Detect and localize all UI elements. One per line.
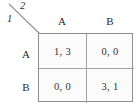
payoff-matrix-figure: 2 1 A B A B 1, 3 0, 0 0, 0 3, 1 [0, 0, 139, 109]
row-header-b: B [18, 81, 34, 93]
table-row: 1, 3 0, 0 [39, 34, 134, 68]
payoff-cell-b-b: 3, 1 [86, 69, 133, 103]
column-header-a: A [38, 15, 86, 27]
table-row: 0, 0 3, 1 [39, 68, 134, 103]
row-player-label: 1 [7, 14, 12, 25]
payoff-cell-b-a: 0, 0 [39, 69, 86, 103]
payoff-cell-a-a: 1, 3 [39, 34, 86, 68]
column-header-b: B [86, 15, 134, 27]
column-player-label: 2 [20, 1, 25, 12]
payoff-cell-a-b: 0, 0 [86, 34, 133, 68]
row-header-a: A [18, 48, 34, 60]
payoff-grid: 1, 3 0, 0 0, 0 3, 1 [38, 33, 133, 102]
matrix-corner-header: 2 1 [4, 0, 42, 36]
